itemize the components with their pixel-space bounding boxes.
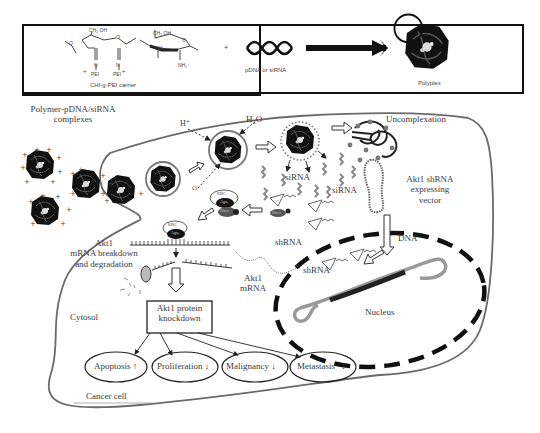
svg-text:+: + xyxy=(34,146,40,154)
carrier-label: CHI-g-PEI carrier xyxy=(90,82,136,89)
outcome-apoptosis-label: Apoptosis xyxy=(94,361,131,371)
hollow-arrow-export xyxy=(364,250,384,264)
svg-text:+: + xyxy=(28,198,34,206)
arrow-down-icon: ↓ xyxy=(341,361,346,371)
dicer-label-2: Dicer xyxy=(272,211,281,216)
outcome-proliferation: Proliferation ↓ xyxy=(157,361,209,371)
svg-text:+: + xyxy=(104,197,110,205)
chem-o-1: O xyxy=(69,41,73,47)
arrow-down-icon: ↓ xyxy=(205,361,210,371)
svg-text:+: + xyxy=(30,220,36,228)
akt1-mrna-line2: mRNA xyxy=(236,283,270,293)
chem-ch2oh-1: CH₂ OH xyxy=(89,28,107,34)
sirna-label-1: siRNA xyxy=(285,172,310,182)
svg-text:+: + xyxy=(22,151,28,159)
nucleic-acid-label: pDNA or siRNA xyxy=(245,67,286,74)
vector-label-line1: Akt1 shRNA xyxy=(396,174,464,184)
chem-ch2oh-2: CH₂ OH xyxy=(153,31,171,37)
hollow-arrow-1 xyxy=(189,162,204,173)
plasmid-vector xyxy=(365,160,384,212)
ago-label-2: Ago₂ xyxy=(171,231,179,236)
risc-label-1: RISC xyxy=(217,192,226,197)
svg-text:+: + xyxy=(70,190,76,198)
complexes-label: Polymer-pDNA/siRNA complexes xyxy=(18,104,128,125)
knockdown-label: Akt1 protein knockdown xyxy=(147,303,212,324)
chem-plus-2: + xyxy=(122,68,126,75)
mrna-breakdown-line3: and degradation xyxy=(60,259,148,269)
proton-label: H⁺ xyxy=(180,119,190,128)
complexes-label-line2: complexes xyxy=(18,114,128,124)
chem-pei-1: PEI xyxy=(91,72,99,78)
outcome-apoptosis: Apoptosis ↑ xyxy=(94,361,137,371)
svg-text:+: + xyxy=(70,170,76,178)
degradation-sparks xyxy=(120,278,140,296)
outcome-arrows xyxy=(135,333,300,357)
outcome-proliferation-label: Proliferation xyxy=(157,361,203,371)
chem-nh2: NH₂ xyxy=(178,63,187,69)
arrow-up-icon: ↑ xyxy=(133,361,138,371)
svg-text:+: + xyxy=(66,206,72,214)
knockdown-label-line1: Akt1 protein xyxy=(147,303,212,313)
shrna-label-1: shRNA xyxy=(275,237,302,247)
cytosol-label: Cytosol xyxy=(70,312,98,322)
chloride-label: Cl⁻ xyxy=(192,185,201,192)
chem-oh: OH xyxy=(155,46,163,52)
chem-o-2: O xyxy=(116,35,120,41)
hollow-arrow-5 xyxy=(198,208,214,220)
reaction-panel-border xyxy=(23,25,260,95)
chem-pei-2: PEI xyxy=(113,72,121,78)
vector-label-line3: vector xyxy=(396,195,464,205)
dna-label: DNA xyxy=(398,233,418,243)
hollow-arrow-3 xyxy=(332,122,352,134)
svg-text:+: + xyxy=(108,180,114,188)
svg-text:+: + xyxy=(57,168,63,176)
vector-label: Akt1 shRNA expressing vector xyxy=(396,174,464,205)
chem-n-1: N xyxy=(94,63,98,69)
plus-sign: + xyxy=(224,44,228,52)
polyplex-outside-2 xyxy=(72,169,100,198)
akt1-mrna-line1: Akt1 xyxy=(236,273,270,283)
hollow-arrow-2 xyxy=(256,141,276,153)
dna-helix-icon xyxy=(247,42,292,54)
akt1-mrna-label: Akt1 mRNA xyxy=(236,273,270,294)
svg-text:+: + xyxy=(55,193,61,201)
svg-text:+: + xyxy=(24,178,30,186)
shrna-dicer xyxy=(270,194,376,270)
nucleus-label: Nucleus xyxy=(365,307,395,317)
outcome-metastasis-label: Metastasis xyxy=(297,361,335,371)
svg-text:+: + xyxy=(20,164,26,172)
hollow-arrow-knockdown xyxy=(168,268,184,292)
hollow-arrow-4 xyxy=(242,204,262,216)
svg-text:+: + xyxy=(138,190,144,198)
water-label: H₂O xyxy=(246,114,262,124)
akt1-mrna-strand xyxy=(236,252,300,273)
outcome-malignancy-label: Malignancy xyxy=(226,361,269,371)
svg-text:+: + xyxy=(50,178,56,186)
chem-plus-1: + xyxy=(83,68,87,75)
svg-text:+: + xyxy=(78,166,84,174)
outcome-malignancy: Malignancy ↓ xyxy=(226,361,276,371)
chem-o-3: O xyxy=(182,38,186,44)
polyplex-outside-1 xyxy=(26,150,54,179)
risc-label-2: RISC xyxy=(168,223,177,228)
polyplex-icon xyxy=(394,14,448,68)
arrow-down-icon: ↓ xyxy=(271,361,276,371)
dicer-label-1: Dicer xyxy=(220,209,229,214)
uncomplexation-label: Uncomplexation xyxy=(386,114,446,124)
shrna-label-2: shRNA xyxy=(303,265,330,275)
svg-text:+: + xyxy=(40,192,46,200)
svg-text:+: + xyxy=(46,146,52,154)
sirna-label-2: siRNA xyxy=(332,185,357,195)
chem-n-2: N xyxy=(116,63,120,69)
svg-text:+: + xyxy=(100,172,106,180)
polyplex-label: Polyplex xyxy=(418,80,441,87)
svg-text:+: + xyxy=(56,154,62,162)
reaction-arrow xyxy=(306,40,388,56)
vector-label-line2: expressing xyxy=(396,184,464,194)
mrna-breakdown-label: Akt1 mRNA breakdown and degradation xyxy=(60,238,148,269)
mrna-breakdown-line2: mRNA breakdown xyxy=(60,248,148,258)
ago-label-1: Ago₂ xyxy=(220,200,228,205)
cancer-cell-label: Cancer cell xyxy=(86,391,127,401)
mrna-breakdown-line1: Akt1 xyxy=(60,238,148,248)
svg-text:+: + xyxy=(60,220,66,228)
